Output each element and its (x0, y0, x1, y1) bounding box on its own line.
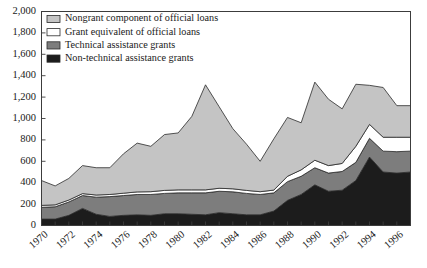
chart-legend: Nongrant component of official loansGran… (47, 12, 218, 63)
legend-swatch (47, 15, 60, 22)
x-tick-label: 1980 (163, 229, 186, 251)
x-tick-label: 1972 (54, 229, 77, 251)
legend-swatch (47, 42, 60, 49)
y-tick-label: 400 (20, 176, 36, 187)
x-tick-label: 1996 (382, 229, 405, 251)
chart-figure: 02004006008001,0001,2001,4001,6001,8002,… (0, 0, 427, 268)
x-tick-label: 1988 (273, 229, 296, 251)
y-tick-label: 1,400 (12, 69, 36, 80)
y-tick-label: 0 (31, 219, 36, 230)
x-tick-label: 1974 (81, 228, 105, 250)
x-tick-label: 1992 (327, 229, 350, 251)
area-series-group (42, 82, 411, 225)
x-tick-label: 1970 (27, 229, 50, 251)
y-tick-label: 1,000 (12, 112, 36, 123)
legend-label: Nongrant component of official loans (65, 12, 218, 23)
y-tick-label: 800 (20, 133, 36, 144)
y-tick-label: 600 (20, 155, 36, 166)
x-tick-label: 1994 (355, 228, 379, 250)
x-tick-label: 1978 (136, 229, 159, 251)
x-tick-label: 1982 (191, 229, 214, 251)
y-tick-label: 2,000 (12, 5, 36, 16)
x-axis-tick-labels: 1970197219741976197819801982198419861988… (27, 228, 405, 250)
x-tick-label: 1986 (245, 229, 268, 251)
y-axis-tick-labels: 02004006008001,0001,2001,4001,6001,8002,… (12, 5, 36, 230)
legend-label: Technical assistance grants (65, 39, 175, 50)
legend-label: Grant equivalent of official loans (65, 26, 200, 37)
legend-swatch (47, 55, 60, 62)
y-tick-label: 200 (20, 198, 36, 209)
x-tick-label: 1990 (300, 229, 323, 251)
y-tick-label: 1,600 (12, 48, 36, 59)
y-tick-label: 1,200 (12, 91, 36, 102)
legend-swatch (47, 29, 60, 36)
x-tick-label: 1984 (218, 228, 242, 250)
legend-label: Non-technical assistance grants (65, 52, 193, 63)
y-tick-label: 1,800 (12, 26, 36, 37)
stacked-area-chart: 02004006008001,0001,2001,4001,6001,8002,… (0, 0, 427, 268)
x-tick-label: 1976 (109, 229, 132, 251)
